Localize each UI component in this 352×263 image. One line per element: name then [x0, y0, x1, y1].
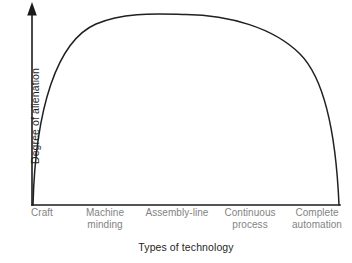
x-axis-title: Types of technology: [32, 241, 340, 253]
alienation-technology-chart: Degree of alienation Craft Machine mindi…: [0, 0, 352, 263]
x-tick-label-assembly-line: Assembly-line: [139, 207, 215, 219]
x-tick-label-continuous-process: Continuous process: [218, 207, 282, 231]
x-tick-label-machine-minding: Machine minding: [74, 207, 136, 231]
x-tick-label-complete-automation: Complete automation: [283, 207, 351, 231]
y-axis-title: Degree of alienation: [29, 36, 41, 196]
alienation-curve: [33, 14, 339, 205]
up-arrow-icon: [27, 2, 37, 16]
x-tick-label-craft: Craft: [31, 207, 77, 219]
